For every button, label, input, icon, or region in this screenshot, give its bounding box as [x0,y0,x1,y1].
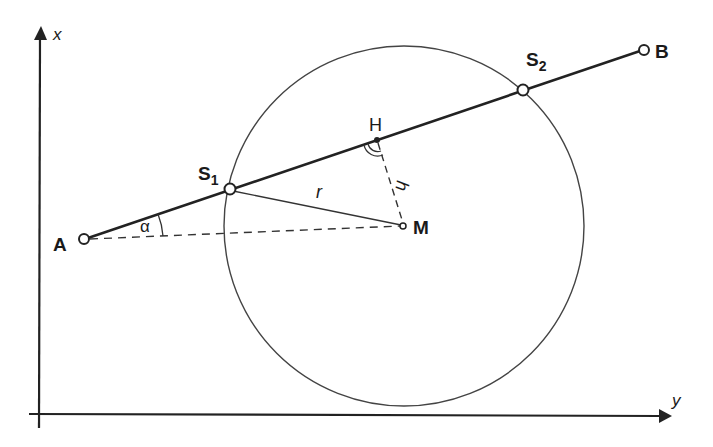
geometry-diagram: x y α A B S1 S2 H M r h [0,0,713,447]
label-m: M [413,217,429,238]
label-h-distance: h [391,179,412,192]
label-h: H [369,115,382,135]
angle-alpha-label: α [140,217,150,236]
label-s2-main: S [526,49,539,70]
point-h [374,137,380,143]
label-s1: S1 [198,163,219,188]
point-s1 [225,184,236,195]
label-s1-sub: 1 [211,172,219,188]
label-s1-main: S [198,163,211,184]
point-b [639,45,649,55]
line-ab [88,51,640,238]
angle-alpha-arc [158,214,163,236]
vertical-axis-arrow-icon [34,26,47,40]
label-b: B [655,41,669,62]
label-s2: S2 [526,49,547,74]
point-m [400,223,406,229]
horizontal-axis-label: y [671,391,682,410]
label-r: r [316,182,323,202]
horizontal-axis-arrow-icon [659,409,672,423]
point-a [79,234,89,244]
label-a: A [53,234,67,255]
vertical-axis-label: x [52,25,62,44]
horizontal-axis [29,414,660,416]
segment-am-dashed [90,226,400,239]
point-s2 [518,85,529,96]
label-s2-sub: 2 [539,58,547,74]
vertical-axis [39,38,40,428]
